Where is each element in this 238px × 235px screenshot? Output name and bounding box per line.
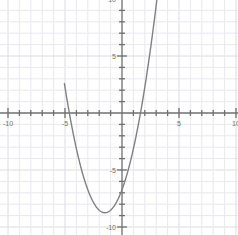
y-tick-label: -10 <box>106 224 116 231</box>
x-tick-label: 10 <box>232 120 238 127</box>
graph-canvas: -10-5510105-5-10 <box>0 0 238 235</box>
coordinate-plane-svg: -10-5510105-5-10 <box>0 0 238 235</box>
y-tick-label: -5 <box>110 167 116 174</box>
y-tick-label: 5 <box>112 53 116 60</box>
x-tick-label: -10 <box>3 120 13 127</box>
y-tick-label: 10 <box>108 0 116 3</box>
x-tick-label: 5 <box>177 120 181 127</box>
x-tick-label: -5 <box>62 120 68 127</box>
